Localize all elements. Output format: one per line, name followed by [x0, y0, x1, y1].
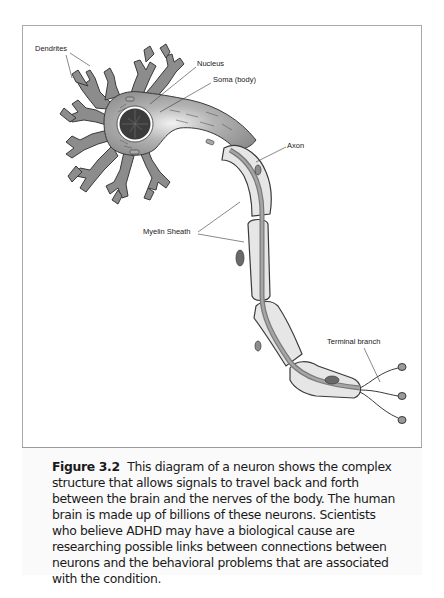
myelin-segment-2 [248, 220, 270, 301]
nucleus [117, 106, 153, 142]
label-dendrites: Dendrites [35, 44, 67, 53]
label-terminal-branch: Terminal branch [327, 337, 380, 346]
label-nucleus: Nucleus [197, 59, 224, 68]
figure-number: Figure 3.2 [52, 459, 120, 474]
label-myelin-sheath: Myelin Sheath [143, 227, 191, 236]
label-soma: Soma (body) [213, 75, 256, 84]
myelin-segment-3 [254, 302, 302, 367]
figure-caption: Figure 3.2 This diagram of a neuron show… [52, 459, 402, 587]
caption-text: This diagram of a neuron shows the compl… [52, 459, 395, 586]
axon [222, 145, 361, 398]
label-axon: Axon [287, 141, 304, 150]
terminal-branches [360, 364, 406, 424]
